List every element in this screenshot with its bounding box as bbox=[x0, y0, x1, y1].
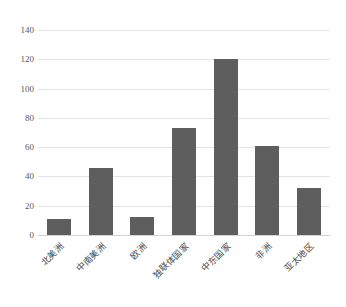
bar-slot bbox=[121, 30, 163, 235]
x-tick-label: 中东国家 bbox=[200, 242, 232, 274]
bar[interactable] bbox=[89, 168, 113, 235]
bar[interactable] bbox=[255, 146, 279, 235]
x-label-slot: 中南美洲 bbox=[80, 236, 122, 306]
bar-chart: 140 120 100 80 60 40 20 0 bbox=[0, 0, 346, 307]
bar-slot bbox=[288, 30, 330, 235]
x-tick-label: 北美洲 bbox=[40, 242, 66, 268]
bar-slot bbox=[247, 30, 289, 235]
bar-slot bbox=[205, 30, 247, 235]
bar-slot bbox=[80, 30, 122, 235]
x-tick-label: 亚太地区 bbox=[284, 242, 316, 274]
y-tick-label: 20 bbox=[4, 201, 34, 210]
bar-slot bbox=[38, 30, 80, 235]
x-tick-label: 欧洲 bbox=[130, 242, 149, 261]
x-label-slot: 独联体国家 bbox=[163, 236, 205, 306]
x-tick-label: 非洲 bbox=[255, 242, 274, 261]
y-tick-label: 100 bbox=[4, 84, 34, 93]
x-label-slot: 亚太地区 bbox=[288, 236, 330, 306]
y-tick-label: 40 bbox=[4, 172, 34, 181]
y-tick-label: 80 bbox=[4, 113, 34, 122]
bars-layer bbox=[38, 30, 330, 235]
bar-slot bbox=[163, 30, 205, 235]
x-axis: 北美洲 中南美洲 欧洲 独联体国家 中东国家 非洲 亚太地区 bbox=[38, 236, 330, 307]
x-label-slot: 非洲 bbox=[247, 236, 289, 306]
y-tick-label: 140 bbox=[4, 26, 34, 35]
y-tick-label: 120 bbox=[4, 55, 34, 64]
bar[interactable] bbox=[172, 128, 196, 235]
y-tick-label: 60 bbox=[4, 143, 34, 152]
x-label-slot: 中东国家 bbox=[205, 236, 247, 306]
bar[interactable] bbox=[47, 219, 71, 235]
bar[interactable] bbox=[297, 188, 321, 235]
y-tick-label: 0 bbox=[4, 231, 34, 240]
bar[interactable] bbox=[130, 217, 154, 235]
x-tick-label: 中南美洲 bbox=[75, 242, 107, 274]
x-label-slot: 北美洲 bbox=[38, 236, 80, 306]
bar[interactable] bbox=[214, 59, 238, 235]
